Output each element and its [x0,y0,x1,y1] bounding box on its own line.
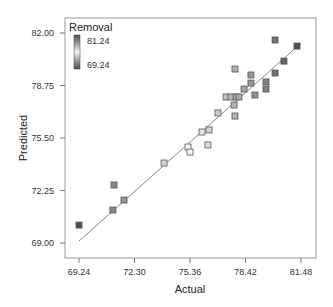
y-tick-label: 75.50 [31,133,54,143]
data-point-marker [206,127,212,133]
data-point-marker [263,86,269,92]
data-point-marker [231,102,237,108]
data-point-marker [272,70,278,76]
legend: Removal 81.24 69.24 [69,21,112,70]
data-point-marker [76,222,82,228]
data-point-marker [199,129,205,135]
legend-title: Removal [69,21,112,33]
data-point-marker [232,113,238,119]
data-point-marker [215,110,221,116]
data-point-marker [205,142,211,148]
data-point-marker [236,94,242,100]
x-tick-label: 78.42 [234,267,257,277]
data-point-marker [232,66,238,72]
data-point-marker [272,37,278,43]
y-tick-label: 78.75 [31,81,54,91]
data-point-marker [281,58,287,64]
data-point-marker [252,92,258,98]
x-tick-label: 69.24 [68,267,91,277]
y-axis-title: Predicted [17,115,29,161]
y-tick-label: 72.25 [31,186,54,196]
x-axis: 69.2472.3075.3678.4281.48 [68,258,313,277]
y-tick-label: 69.00 [31,238,54,248]
data-point-marker [241,86,247,92]
x-axis-title: Actual [175,283,206,295]
data-point-marker [111,182,117,188]
data-point-marker [248,80,254,86]
data-point-marker [187,149,193,155]
y-tick-label: 82.00 [31,28,54,38]
data-point-marker [294,43,300,49]
colorbar-min-label: 69.24 [87,60,110,70]
data-point-marker [110,207,116,213]
data-point-marker [263,79,269,85]
colorbar [74,35,80,69]
x-tick-label: 72.30 [123,267,146,277]
y-axis: 82.0078.7575.5072.2569.00 [31,28,65,248]
predicted-vs-actual-chart: 82.0078.7575.5072.2569.00 69.2472.3075.3… [0,0,333,307]
data-point-marker [121,197,127,203]
data-point-marker [248,72,254,78]
data-point-marker [161,160,167,166]
plot-area [65,18,316,258]
x-tick-label: 81.48 [290,267,313,277]
colorbar-max-label: 81.24 [87,36,110,46]
x-tick-label: 75.36 [179,267,202,277]
